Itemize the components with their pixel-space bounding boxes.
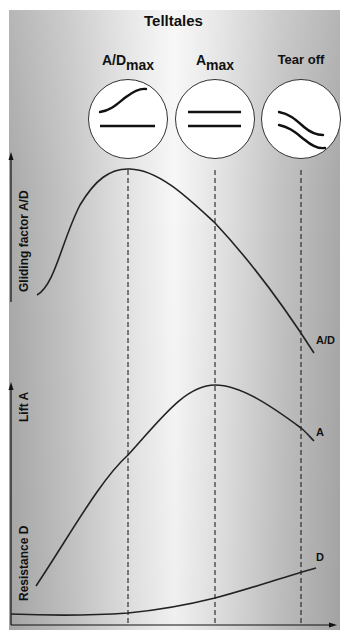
upper-y-axis-label: Gliding factor A/D <box>17 190 31 292</box>
drag-curve <box>11 568 316 615</box>
telltale-parallel-icon <box>176 80 255 159</box>
lift-curve-label: A <box>316 426 324 438</box>
lift-axis-label: Lift A <box>17 392 31 422</box>
glide-ratio-curve <box>37 169 314 353</box>
lift-curve <box>36 385 314 586</box>
diagram-svg <box>0 0 347 639</box>
telltale-both-drooping-icon <box>262 80 341 159</box>
x-axis-arrow-icon <box>329 623 337 628</box>
drag-axis-label: Resistance D <box>17 526 31 601</box>
upper-y-axis-arrow-icon <box>9 152 14 160</box>
drag-curve-label: D <box>316 551 324 563</box>
lower-y-axis-arrow-icon <box>9 382 14 390</box>
telltale-upper-lifting-icon <box>89 80 168 159</box>
glide-curve-label: A/D <box>316 334 335 346</box>
